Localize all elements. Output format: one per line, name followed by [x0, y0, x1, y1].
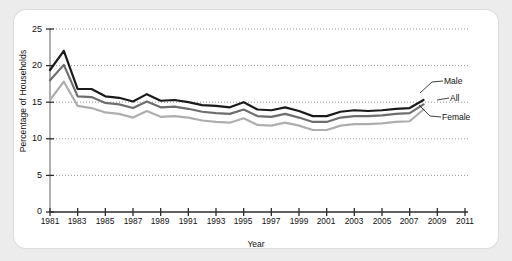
x-tick-label-2011: 2011	[448, 216, 482, 226]
y-tick-label-25: 25	[20, 24, 42, 34]
series-label-male: Male	[444, 76, 462, 86]
series-label-female: Female	[442, 112, 470, 122]
chart-figure: Percentage of Households Year 25 20 15 1…	[0, 0, 512, 261]
y-tick-label-0: 0	[20, 206, 42, 216]
y-tick-label-10: 10	[20, 133, 42, 143]
y-tick-label-5: 5	[20, 170, 42, 180]
y-tick-label-15: 15	[20, 97, 42, 107]
chart-panel	[14, 10, 498, 248]
x-axis-title: Year	[0, 239, 512, 249]
series-label-all: All	[450, 93, 459, 103]
y-tick-label-20: 20	[20, 60, 42, 70]
